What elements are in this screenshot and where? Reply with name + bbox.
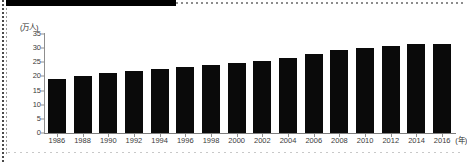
x-axis-tick-mark [365,134,366,137]
x-axis-tick-mark [416,134,417,137]
x-axis-tick-mark [288,134,289,137]
bar [330,50,348,133]
x-axis-tick-mark [83,134,84,137]
x-axis-tick-label: 2002 [254,137,271,145]
x-axis-tick-label: 1988 [74,137,91,145]
bar [279,58,297,133]
x-axis-tick-label: 2006 [305,137,322,145]
x-axis-tick-label: 1992 [126,137,143,145]
x-axis-tick-label: 2016 [434,137,451,145]
x-axis-tick-label: 2004 [280,137,297,145]
x-axis-tick-label: 1990 [100,137,117,145]
x-axis-unit-label: (年) [455,137,467,145]
x-axis-tick-label: 1996 [177,137,194,145]
bar [356,48,374,133]
bar [407,44,425,133]
page-top-black-bar [6,0,176,6]
bar [125,71,143,133]
x-axis-tick-mark [262,134,263,137]
x-axis-tick-mark [314,134,315,137]
x-axis-tick-mark [57,134,58,137]
bar [305,54,323,133]
page-top-dashed-rule [176,2,464,4]
bar [433,44,451,133]
bar [48,79,66,133]
x-axis-ticks: 1986198819901992199419961998200020022004… [44,137,455,151]
x-axis-tick-mark [160,134,161,137]
x-axis-tick-mark [339,134,340,137]
x-axis-tick-label: 1986 [49,137,66,145]
page-left-dashed-border [2,0,4,163]
x-axis-tick-mark [134,134,135,137]
bar [176,67,194,133]
x-axis-tick-mark [108,134,109,137]
x-axis-tick-mark [185,134,186,137]
x-axis-tick-label: 2000 [228,137,245,145]
x-axis-tick-label: 2008 [331,137,348,145]
bar [202,65,220,133]
x-axis-line [44,133,456,134]
x-axis-tick-label: 1994 [151,137,168,145]
x-axis-tick-mark [442,134,443,137]
plot-area: 05101520253035 [44,34,455,133]
bar [382,46,400,133]
x-axis-tick-label: 2010 [357,137,374,145]
x-axis-tick-label: 2014 [408,137,425,145]
bar [151,69,169,133]
bar [253,61,271,133]
x-axis-tick-mark [211,134,212,137]
bar-chart: (万人) 05101520253035 19861988199019921994… [8,8,460,153]
bar-series [44,34,455,133]
x-axis-tick-label: 1998 [203,137,220,145]
x-axis-tick-mark [237,134,238,137]
bar [99,73,117,133]
x-axis-tick-mark [391,134,392,137]
bar [228,63,246,133]
bar [74,76,92,133]
x-axis-tick-label: 2012 [382,137,399,145]
page-left-inner-border [6,8,7,155]
